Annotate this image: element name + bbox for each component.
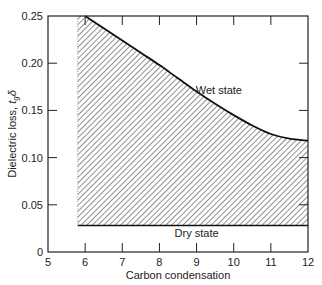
x-axis-label: Carbon condensation [126, 269, 231, 281]
y-tick-label: 0.10 [22, 152, 43, 164]
hatched-area [78, 16, 308, 226]
x-tick-label: 8 [156, 256, 162, 268]
y-tick-label: 0 [37, 246, 43, 258]
y-tick-label: 0.05 [22, 199, 43, 211]
x-tick-label: 5 [45, 256, 51, 268]
x-tick-label: 11 [265, 256, 276, 268]
x-tick-label: 7 [119, 256, 125, 268]
x-tick-label: 12 [302, 256, 314, 268]
x-tick-label: 9 [194, 256, 200, 268]
y-tick-label: 0.25 [22, 10, 43, 22]
y-tick-label: 0.15 [22, 104, 43, 116]
x-tick-label: 10 [228, 256, 240, 268]
wet-state-label: Wet state [196, 84, 242, 96]
shaded-region [78, 16, 308, 226]
x-tick-label: 6 [82, 256, 88, 268]
y-tick-label: 0.20 [22, 57, 43, 69]
y-axis-label: Dielectric loss, tgδ [6, 89, 20, 177]
chart: 56789101112 00.050.100.150.200.25 Carbon… [0, 0, 322, 285]
dry-state-label: Dry state [175, 227, 219, 239]
